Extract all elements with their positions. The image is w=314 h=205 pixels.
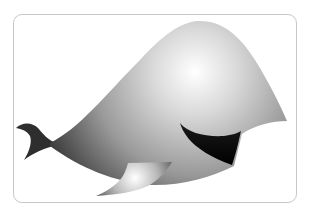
whale-illustration xyxy=(0,0,314,205)
whale-body xyxy=(50,21,287,185)
whale-tail xyxy=(16,124,56,161)
